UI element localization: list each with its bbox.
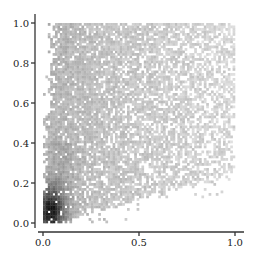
density-heatmap-chart: 0.0 0.2 0.4 0.6 0.8 1.0 0.0 0.5 1.0 (0, 0, 257, 258)
x-tick-label: 0.5 (131, 237, 147, 248)
y-tick-label: 0.2 (13, 178, 29, 189)
heatmap-cells (43, 23, 235, 223)
y-tick-label: 0.6 (13, 98, 29, 109)
x-tick-label: 0.0 (35, 237, 51, 248)
y-tick-label: 0.8 (13, 58, 29, 69)
y-axis-ticks: 0.0 0.2 0.4 0.6 0.8 1.0 (13, 18, 35, 229)
y-tick-label: 1.0 (13, 18, 29, 29)
x-axis-ticks: 0.0 0.5 1.0 (35, 232, 243, 248)
y-tick-label: 0.4 (13, 138, 29, 149)
y-tick-label: 0.0 (13, 218, 29, 229)
x-tick-label: 1.0 (227, 237, 243, 248)
